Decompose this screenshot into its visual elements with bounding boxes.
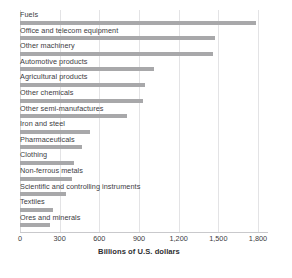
bar [20, 223, 50, 227]
category-label: Textiles [20, 197, 45, 206]
x-tick-label: 1,800 [249, 234, 267, 244]
bar-row: Agricultural products [0, 72, 292, 88]
bar-row: Fuels [0, 10, 292, 26]
category-label: Scientific and controlling instruments [20, 182, 140, 191]
category-label: Ores and minerals [20, 213, 80, 222]
bar [20, 83, 145, 87]
category-label: Fuels [20, 10, 38, 19]
bar [20, 67, 154, 71]
x-axis-line [20, 232, 268, 233]
bar [20, 52, 213, 56]
bar-row: Ores and minerals [0, 213, 292, 229]
bar-row: Other chemicals [0, 88, 292, 104]
x-tick-label: 900 [133, 234, 145, 244]
plot-area: FuelsOffice and telecom equipmentOther m… [0, 0, 292, 236]
bar-row: Pharmaceuticals [0, 135, 292, 151]
x-tick-label: 300 [54, 234, 66, 244]
bar-row: Automotive products [0, 57, 292, 73]
bar-row: Iron and steel [0, 119, 292, 135]
bar [20, 208, 53, 212]
bar [20, 177, 72, 181]
bar-row: Other semi-manufactures [0, 104, 292, 120]
category-label: Agricultural products [20, 72, 88, 81]
category-label: Pharmaceuticals [20, 135, 75, 144]
x-tick-label: 600 [93, 234, 105, 244]
x-tick-label: 0 [18, 234, 22, 244]
category-label: Other chemicals [20, 88, 73, 97]
category-label: Clothing [20, 150, 47, 159]
bar [20, 145, 82, 149]
bar-row: Scientific and controlling instruments [0, 182, 292, 198]
bar [20, 130, 90, 134]
category-label: Non-ferrous metals [20, 166, 83, 175]
category-label: Automotive products [20, 57, 87, 66]
bar [20, 99, 143, 103]
bar-row: Office and telecom equipment [0, 26, 292, 42]
bar [20, 192, 66, 196]
category-label: Other semi-manufactures [20, 104, 103, 113]
bar [20, 36, 215, 40]
bar [20, 161, 74, 165]
x-tick-label: 1,200 [170, 234, 188, 244]
category-label: Office and telecom equipment [20, 26, 118, 35]
bar-row: Textiles [0, 197, 292, 213]
category-label: Iron and steel [20, 119, 65, 128]
bar [20, 114, 127, 118]
bar-row: Clothing [0, 150, 292, 166]
category-label: Other machinery [20, 41, 75, 50]
bar-row: Non-ferrous metals [0, 166, 292, 182]
bar [20, 21, 256, 25]
x-tick-label: 1,500 [209, 234, 227, 244]
bar-chart: FuelsOffice and telecom equipmentOther m… [0, 0, 292, 278]
x-axis-tick-labels: 03006009001,2001,5001,800 [0, 234, 292, 246]
bar-row: Other machinery [0, 41, 292, 57]
x-axis-title: Billions of U.S. dollars [20, 247, 258, 256]
